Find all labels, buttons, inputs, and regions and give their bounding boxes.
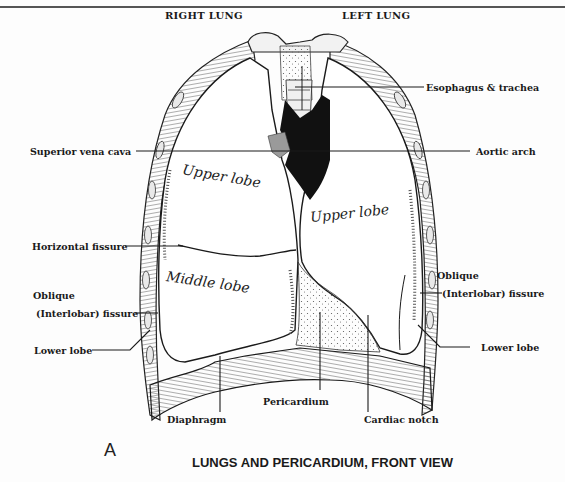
label-lower-lobe-left: Lower lobe (34, 345, 92, 356)
right-lung-title: RIGHT LUNG (165, 10, 243, 21)
diagram-canvas: RIGHT LUNG LEFT LUNG Esophagus & trachea… (0, 0, 565, 482)
label-oblique-left-1: Oblique (33, 290, 75, 301)
left-lung-title: LEFT LUNG (342, 10, 410, 21)
label-aortic-arch: Aortic arch (476, 146, 536, 157)
label-pericardium: Pericardium (263, 396, 329, 407)
label-oblique-right-2: (Interlobar) fissure (442, 288, 544, 299)
label-oblique-left-2: (Interlobar) fissure (36, 308, 138, 319)
label-horizontal-fissure: Horizontal fissure (32, 241, 128, 252)
label-oblique-right-1: Oblique (437, 270, 479, 281)
label-lower-lobe-right: Lower lobe (481, 342, 539, 353)
label-diaphragm: Diaphragm (167, 414, 226, 425)
label-esophagus-trachea: Esophagus & trachea (426, 82, 539, 93)
label-cardiac-notch: Cardiac notch (364, 414, 439, 425)
figure-caption: LUNGS AND PERICARDIUM, FRONT VIEW (0, 455, 565, 470)
label-superior-vena-cava: Superior vena cava (30, 146, 131, 157)
